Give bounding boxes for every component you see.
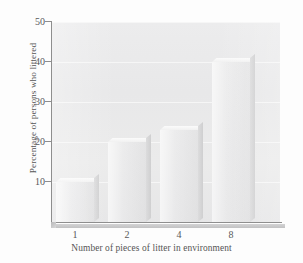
y-tick-label-40: 40 (5, 56, 45, 67)
y-tick-mark-50 (45, 21, 52, 22)
bar-side-face (250, 54, 255, 222)
x-tick-label-1: 1 (55, 229, 95, 240)
bar-category-1 (56, 182, 94, 222)
bar-category-8 (212, 62, 250, 222)
bar-side-face (146, 134, 151, 222)
axis-floor-corner (51, 222, 56, 228)
y-tick-mark-20 (45, 141, 52, 142)
bar-category-4 (160, 130, 198, 222)
y-tick-label-30: 30 (5, 96, 45, 107)
y-tick-label-50: 50 (5, 16, 45, 27)
x-axis-label: Number of pieces of litter in environmen… (0, 243, 303, 253)
plot-area (52, 22, 280, 222)
bar-front-face (160, 130, 198, 222)
bar-side-face (94, 174, 99, 222)
bar-front-face (212, 62, 250, 222)
y-axis-line (51, 21, 52, 223)
y-tick-label-20: 20 (5, 136, 45, 147)
x-tick-label-8: 8 (211, 229, 251, 240)
y-tick-label-10: 10 (5, 176, 45, 187)
y-tick-mark-40 (45, 61, 52, 62)
bar-chart-figure: Percentage of persons who littered 50 40… (0, 0, 303, 263)
x-tick-label-4: 4 (159, 229, 199, 240)
axis-floor (55, 224, 285, 228)
bar-side-face (198, 122, 203, 222)
gridline-50 (52, 22, 280, 23)
x-tick-label-2: 2 (107, 229, 147, 240)
y-tick-mark-10 (45, 181, 52, 182)
bar-front-face (108, 142, 146, 222)
bar-front-face (56, 182, 94, 222)
bar-category-2 (108, 142, 146, 222)
y-tick-mark-30 (45, 101, 52, 102)
